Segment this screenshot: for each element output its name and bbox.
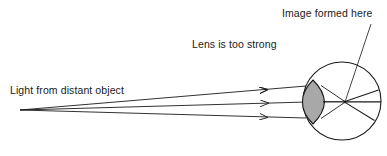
incoming-ray-bottom: [20, 110, 306, 118]
label-lens-is-too-strong: Lens is too strong: [192, 38, 277, 50]
label-image-formed-here: Image formed here: [282, 7, 372, 19]
focal-point-marker: [344, 101, 347, 104]
refracted-rays: [321, 86, 345, 119]
label-light-from-distant-object: Light from distant object: [10, 84, 124, 96]
diverging-rays-to-retina: [345, 90, 381, 121]
focal-point-group: [344, 101, 347, 104]
diverging-ray-upper: [345, 90, 379, 102]
diverging-ray-lower: [345, 102, 375, 120]
diagram-canvas: Image formed here Lens is too strong Lig…: [0, 0, 387, 156]
optics-ray-diagram: [0, 0, 387, 156]
